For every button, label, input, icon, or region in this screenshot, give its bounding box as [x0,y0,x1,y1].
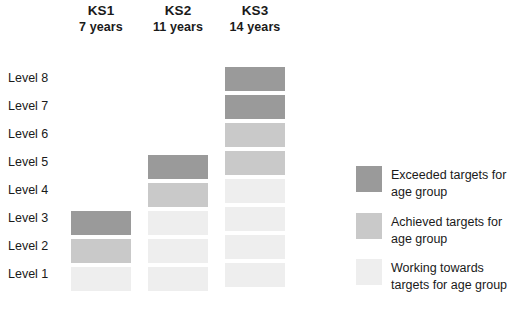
bar-ks2-level-1 [148,267,208,291]
legend-swatch-working [356,259,382,285]
row-label-level-8: Level 8 [8,71,70,86]
bar-ks3-level-1 [225,263,285,287]
row-label-level-7: Level 7 [8,99,70,114]
legend-swatch-exceeded [356,166,382,192]
row-label-level-1: Level 1 [8,267,70,282]
legend-label-exceeded: Exceeded targets for age group [391,167,519,201]
legend-label-achieved-line1: Achieved targets for [391,214,519,231]
bar-ks2-level-3 [148,211,208,235]
bar-ks3-level-7 [225,95,285,119]
bar-ks3-level-3 [225,207,285,231]
column-header-ks3-age: 14 years [209,19,301,36]
bar-ks2-level-2 [148,239,208,263]
bar-ks3-level-8 [225,67,285,91]
column-header-ks3: KS3 14 years [209,2,301,36]
bar-ks2-level-5 [148,155,208,179]
bar-ks1-level-1 [71,267,131,291]
legend-label-working-line2: targets for age group [391,277,519,294]
row-label-level-4: Level 4 [8,183,70,198]
legend-label-exceeded-line1: Exceeded targets for [391,167,519,184]
legend-swatch-achieved [356,213,382,239]
legend-label-exceeded-line2: age group [391,184,519,201]
legend-label-achieved: Achieved targets for age group [391,214,519,248]
column-header-ks3-name: KS3 [209,2,301,19]
row-label-level-3: Level 3 [8,211,70,226]
legend-label-working: Working towards targets for age group [391,260,519,294]
key-stage-levels-chart: KS1 7 years KS2 11 years KS3 14 years Le… [0,0,519,313]
bar-ks3-level-6 [225,123,285,147]
row-label-level-6: Level 6 [8,127,70,142]
bar-ks3-level-4 [225,179,285,203]
bar-ks2-level-4 [148,183,208,207]
row-label-level-5: Level 5 [8,155,70,170]
bar-ks3-level-5 [225,151,285,175]
row-label-level-2: Level 2 [8,239,70,254]
legend-label-achieved-line2: age group [391,231,519,248]
bar-ks1-level-3 [71,211,131,235]
bar-ks1-level-2 [71,239,131,263]
bar-ks3-level-2 [225,235,285,259]
legend-label-working-line1: Working towards [391,260,519,277]
